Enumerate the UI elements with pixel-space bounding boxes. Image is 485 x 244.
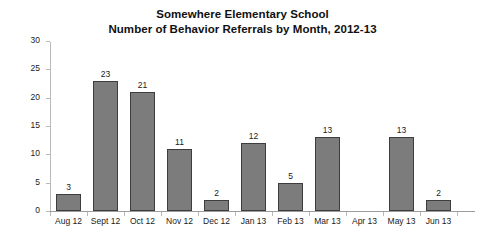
bar-value-label: 13	[383, 125, 420, 135]
bar-value-label: 2	[420, 188, 457, 198]
bar-slot: 11	[161, 41, 198, 211]
bar[interactable]	[426, 200, 451, 211]
x-axis-line	[50, 211, 475, 212]
x-axis-label: Jan 13	[233, 216, 274, 226]
bar-slot: 5	[272, 41, 309, 211]
bar-value-label: 5	[272, 171, 309, 181]
bar[interactable]	[315, 137, 340, 211]
bar-value-label: 12	[235, 131, 272, 141]
y-tick-label: 15	[31, 120, 40, 130]
x-axis-label: Mar 13	[307, 216, 348, 226]
bar-slot	[346, 41, 383, 211]
x-axis-label: Feb 13	[270, 216, 311, 226]
bar[interactable]	[130, 92, 155, 211]
bar[interactable]	[93, 81, 118, 211]
bar-slot: 3	[50, 41, 87, 211]
bar-value-label: 21	[124, 80, 161, 90]
y-tick-label: 20	[31, 92, 40, 102]
bar-value-label: 11	[161, 137, 198, 147]
bar-value-label: 23	[87, 69, 124, 79]
bar[interactable]	[204, 200, 229, 211]
bar-value-label: 2	[198, 188, 235, 198]
bar-slot: 13	[383, 41, 420, 211]
chart-title: Somewhere Elementary School	[0, 7, 485, 22]
bar-slot: 21	[124, 41, 161, 211]
x-axis-labels: Aug 12Sept 12Oct 12Nov 12Dec 12Jan 13Feb…	[50, 216, 475, 232]
y-tick-label: 10	[31, 148, 40, 158]
y-tick-label: 25	[31, 63, 40, 73]
x-axis-label: Sept 12	[85, 216, 126, 226]
bar-slot: 23	[87, 41, 124, 211]
bar[interactable]	[167, 149, 192, 211]
bar[interactable]	[389, 137, 414, 211]
bar-chart: Somewhere Elementary School Number of Be…	[0, 0, 485, 244]
bar-value-label: 3	[50, 182, 87, 192]
x-axis-label: Dec 12	[196, 216, 237, 226]
chart-title-block: Somewhere Elementary School Number of Be…	[0, 7, 485, 37]
x-axis-label: Aug 12	[48, 216, 89, 226]
x-axis-label: Apr 13	[344, 216, 385, 226]
bar-slot: 12	[235, 41, 272, 211]
bar-slot: 13	[309, 41, 346, 211]
plot-area: 051015202530 3232111212513132	[50, 42, 475, 212]
bar[interactable]	[241, 143, 266, 211]
bar-value-label: 13	[309, 125, 346, 135]
x-axis-label: Nov 12	[159, 216, 200, 226]
y-tick-label: 30	[31, 35, 40, 45]
x-axis-label: May 13	[381, 216, 422, 226]
bar-slot: 2	[198, 41, 235, 211]
bar-slot: 2	[420, 41, 457, 211]
chart-subtitle: Number of Behavior Referrals by Month, 2…	[0, 22, 485, 37]
y-tick-label: 0	[35, 205, 40, 215]
y-tick-label: 5	[35, 177, 40, 187]
bar[interactable]	[278, 183, 303, 211]
x-axis-label: Jun 13	[418, 216, 459, 226]
bar[interactable]	[56, 194, 81, 211]
x-axis-label: Oct 12	[122, 216, 163, 226]
